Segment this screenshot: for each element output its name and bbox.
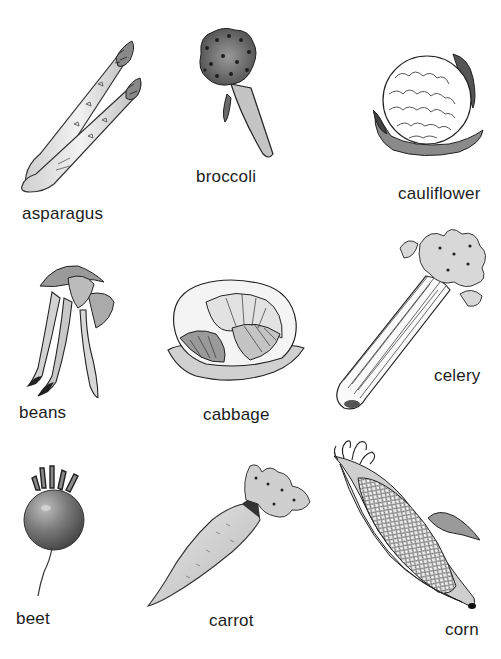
broccoli-illustration bbox=[193, 26, 278, 160]
asparagus-illustration bbox=[18, 36, 143, 194]
cauliflower-illustration bbox=[373, 48, 485, 158]
label-beans: beans bbox=[19, 403, 66, 423]
label-broccoli: broccoli bbox=[196, 167, 256, 187]
beet-illustration bbox=[22, 460, 88, 600]
label-cabbage: cabbage bbox=[203, 405, 270, 425]
label-asparagus: asparagus bbox=[22, 204, 103, 224]
beans-illustration bbox=[24, 258, 116, 398]
carrot-illustration bbox=[146, 460, 312, 610]
label-celery: celery bbox=[434, 366, 481, 386]
cabbage-illustration bbox=[166, 278, 306, 386]
label-carrot: carrot bbox=[209, 611, 254, 631]
label-beet: beet bbox=[16, 609, 50, 629]
label-cauliflower: cauliflower bbox=[398, 184, 481, 204]
label-corn: corn bbox=[445, 620, 479, 640]
corn-illustration bbox=[330, 436, 480, 612]
